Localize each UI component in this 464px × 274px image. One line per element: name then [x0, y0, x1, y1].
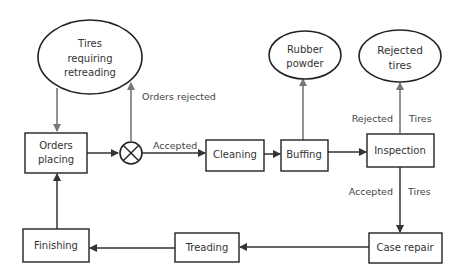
- node-label: Cleaning: [213, 149, 257, 160]
- node-tires-requiring-retreading: Tires requiring retreading: [38, 20, 142, 94]
- node-label: tires: [388, 59, 411, 71]
- junction-circle-x-icon: [120, 142, 142, 164]
- node-label: Treading: [185, 242, 229, 253]
- node-inspection: Inspection: [367, 134, 434, 167]
- node-label: Buffing: [286, 149, 322, 160]
- edge-label-tires-bottom: Tires: [407, 186, 431, 197]
- edge-label-orders-rejected: Orders rejected: [142, 91, 216, 102]
- node-rubber-powder: Rubber powder: [269, 31, 341, 79]
- edge-label-tires-top: Tires: [408, 113, 432, 124]
- node-orders-placing: Orders placing: [25, 133, 87, 173]
- node-label: Case repair: [376, 242, 434, 253]
- node-label: Orders: [39, 140, 73, 151]
- node-treading: Treading: [175, 233, 239, 262]
- retreading-process-diagram: Tires requiring retreading Rubber powder…: [0, 0, 464, 274]
- node-label: retreading: [64, 67, 116, 78]
- node-label: Rejected: [377, 44, 423, 56]
- node-label: powder: [286, 58, 324, 69]
- node-cleaning: Cleaning: [206, 140, 264, 171]
- node-label: Rubber: [287, 44, 324, 55]
- node-label: requiring: [67, 53, 112, 64]
- node-finishing: Finishing: [23, 229, 89, 262]
- node-label: Inspection: [374, 145, 426, 156]
- node-rejected-tires: Rejected tires: [359, 30, 441, 82]
- node-buffing: Buffing: [281, 140, 328, 171]
- node-label: Tires: [77, 38, 102, 49]
- edge-label-accepted: Accepted: [153, 140, 197, 151]
- node-label: Finishing: [34, 240, 78, 251]
- edge-label-rejected: Rejected: [352, 113, 393, 124]
- node-case-repair: Case repair: [369, 233, 442, 263]
- node-label: placing: [38, 154, 74, 165]
- edge-label-accepted-tires: Accepted: [349, 186, 393, 197]
